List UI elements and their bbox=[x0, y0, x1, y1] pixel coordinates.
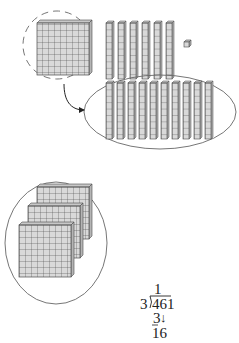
ten-rods-group bbox=[84, 75, 236, 149]
regroup-arrow-icon bbox=[64, 84, 84, 110]
hundred-flat bbox=[37, 20, 92, 75]
long-division: 1 3 461 3 ↓ 16 bbox=[140, 282, 190, 342]
hundreds-flats-group bbox=[5, 182, 107, 304]
regrouped-hundred-group bbox=[23, 11, 92, 79]
tens-rods-group bbox=[106, 21, 174, 79]
partial-remainder: 16 bbox=[152, 326, 167, 341]
bring-down-arrow-icon: ↓ bbox=[160, 311, 167, 324]
quotient: 1 bbox=[154, 282, 162, 297]
unit-cube bbox=[184, 40, 191, 47]
divisor: 3 bbox=[140, 297, 148, 312]
base-ten-diagram bbox=[0, 0, 239, 343]
